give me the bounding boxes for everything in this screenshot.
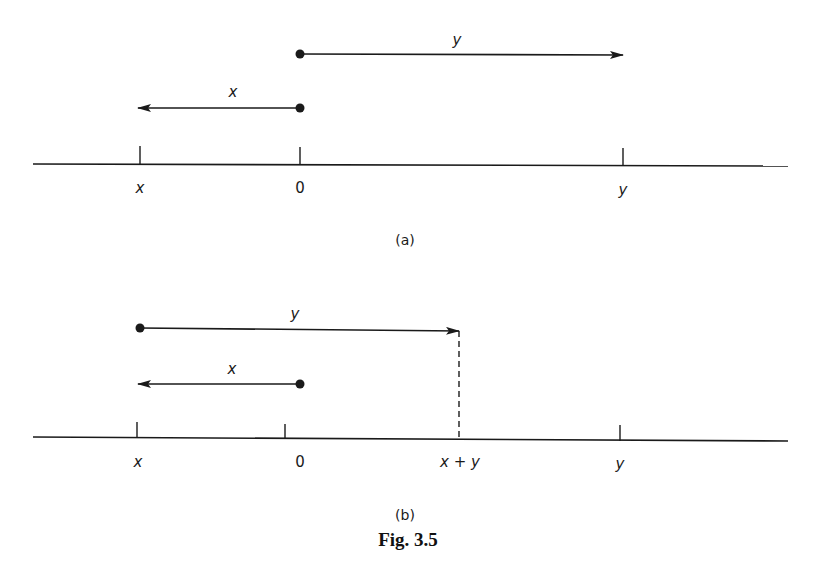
vector-x-label: x bbox=[227, 360, 237, 378]
vector-y-label: y bbox=[452, 31, 463, 49]
tick-label-x: x bbox=[135, 179, 145, 197]
number-line: x 0 y bbox=[33, 146, 788, 199]
panel-a: y x x 0 y (a) bbox=[33, 31, 788, 248]
vector-x-origin-dot bbox=[296, 104, 305, 113]
vector-y: y bbox=[296, 31, 624, 59]
vector-addition-figure: y x x 0 y (a) y x bbox=[0, 0, 815, 585]
tick-label-x: x bbox=[133, 453, 143, 471]
tick-label-x-plus-y: x + y bbox=[439, 453, 481, 471]
tick-label-y: y bbox=[618, 181, 629, 199]
tick-label-zero: 0 bbox=[295, 179, 305, 197]
panel-b: y x x 0 x + y y (b) bbox=[33, 305, 788, 523]
vector-x-label: x bbox=[228, 83, 238, 101]
vector-x: x bbox=[138, 83, 305, 113]
vector-x-origin-dot bbox=[296, 380, 305, 389]
number-line: x 0 x + y y bbox=[33, 422, 788, 473]
figure-caption: Fig. 3.5 bbox=[378, 529, 438, 550]
panel-b-sublabel: (b) bbox=[395, 507, 415, 523]
vector-x: x bbox=[138, 360, 305, 389]
panel-a-sublabel: (a) bbox=[395, 232, 415, 248]
vector-y: y bbox=[136, 305, 460, 333]
vector-y-origin-dot bbox=[136, 324, 145, 333]
vector-y-label: y bbox=[290, 305, 301, 323]
vector-y-origin-dot bbox=[296, 50, 305, 59]
tick-label-zero: 0 bbox=[295, 453, 305, 471]
tick-label-y: y bbox=[615, 455, 626, 473]
